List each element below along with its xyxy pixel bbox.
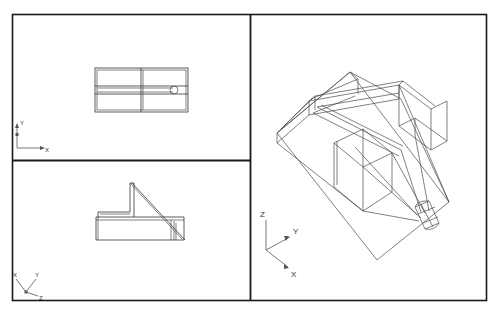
iso-z-label: Z [260, 210, 265, 219]
ucs-axis-3d-front: X Y Z [13, 272, 43, 300]
front-view-y-label: Y [35, 272, 39, 278]
viewport-front-view[interactable]: X Y Z [13, 161, 250, 300]
ucs-axis-2d: Y X [15, 120, 49, 153]
y-axis-arrow-icon [15, 123, 19, 128]
ucs-origin-marker-icon [25, 291, 28, 294]
iso-y-label: Y [293, 227, 299, 236]
top-view-ucs-icon: Y X [13, 15, 250, 160]
ucs-axis-3d-iso: Z Y X [260, 210, 299, 279]
ucs-origin-marker-icon [16, 133, 19, 136]
front-view-ucs-icon: X Y Z [13, 161, 250, 300]
viewport-top-view[interactable]: Y X [13, 15, 250, 160]
isometric-ucs-icon: Z Y X [251, 15, 487, 300]
iso-x-label: X [291, 270, 297, 279]
x-axis-arrow-icon [284, 264, 289, 269]
top-view-x-label: X [45, 147, 49, 153]
viewport-isometric-view[interactable]: Z Y X [251, 15, 487, 300]
top-view-y-label: Y [20, 120, 24, 126]
cad-drawing-canvas: Y X [0, 0, 498, 315]
front-view-x-label: X [13, 272, 17, 278]
front-view-z-label: Z [39, 295, 43, 300]
